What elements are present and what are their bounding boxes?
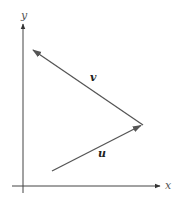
vector-diagram-canvas: [0, 0, 177, 201]
x-axis-label: x: [165, 180, 171, 191]
vector-v-label: v: [90, 72, 96, 83]
vector-u-arrow: [52, 126, 141, 172]
vector-u-label: u: [98, 148, 106, 159]
y-axis-label: y: [21, 10, 27, 21]
vector-v-arrow: [33, 50, 143, 125]
